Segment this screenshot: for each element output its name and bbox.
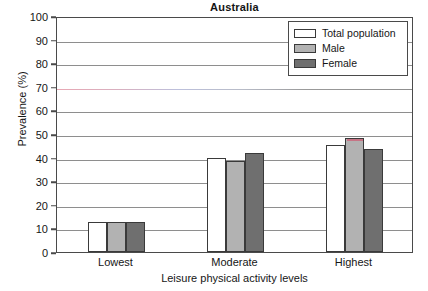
y-tick-label-80: 80	[36, 58, 48, 70]
legend-item-total: Total population	[294, 26, 402, 41]
y-tick-label-40: 40	[36, 153, 48, 165]
bar-highest-total-population	[326, 145, 345, 252]
y-tick-label-10: 10	[36, 223, 48, 235]
bar-moderate-male	[226, 161, 245, 252]
y-axis-tick-labels: 0102030405060708090100	[0, 17, 52, 253]
y-tick-label-70: 70	[36, 82, 48, 94]
y-tick-label-20: 20	[36, 200, 48, 212]
x-tick-label-moderate: Moderate	[211, 256, 257, 268]
y-tick-label-60: 60	[36, 105, 48, 117]
x-axis-tick-labels: LowestModerateHighest	[56, 256, 413, 272]
bar-lowest-total-population	[88, 222, 107, 252]
x-tick-label-lowest: Lowest	[98, 256, 133, 268]
bar-lowest-male	[107, 222, 126, 252]
legend-swatch-total	[294, 29, 316, 38]
y-tick-label-100: 100	[30, 11, 48, 23]
chart-title: Australia	[56, 1, 413, 13]
legend-swatch-male	[294, 44, 316, 53]
legend-label-female: Female	[322, 58, 357, 69]
y-tick-label-0: 0	[42, 247, 48, 259]
legend-label-male: Male	[322, 43, 345, 54]
legend-item-female: Female	[294, 56, 402, 71]
y-tick-label-50: 50	[36, 129, 48, 141]
bar-highest-female	[364, 149, 383, 252]
x-axis-title: Leisure physical activity levels	[56, 272, 413, 284]
chart-figure: Australia Prevalence (%) 010203040506070…	[0, 0, 428, 291]
chart-legend: Total populationMaleFemale	[288, 21, 408, 76]
scan-artifact-smudge	[347, 139, 363, 141]
legend-item-male: Male	[294, 41, 402, 56]
bar-moderate-female	[245, 153, 264, 252]
x-tick-label-highest: Highest	[335, 256, 372, 268]
bar-highest-male	[345, 138, 364, 252]
y-tick-label-30: 30	[36, 176, 48, 188]
legend-swatch-female	[294, 59, 316, 68]
y-tick-label-90: 90	[36, 35, 48, 47]
legend-label-total: Total population	[322, 28, 396, 39]
bar-moderate-total-population	[207, 158, 226, 252]
bar-lowest-female	[126, 222, 145, 252]
